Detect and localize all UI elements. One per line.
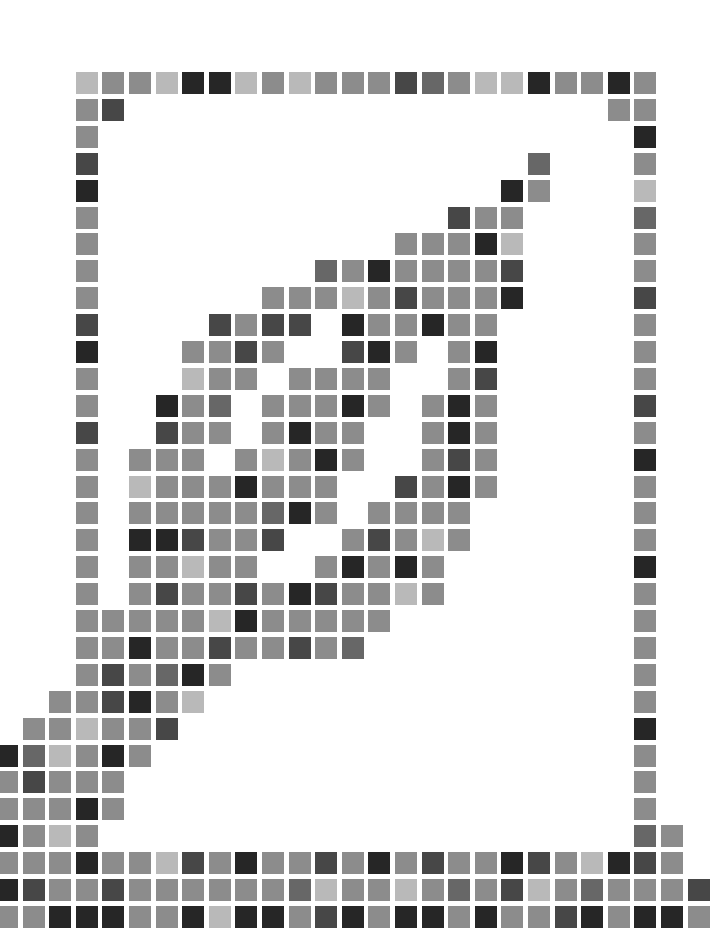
mosaic-tile xyxy=(395,260,417,282)
mosaic-tile xyxy=(342,422,364,444)
mosaic-tile xyxy=(422,583,444,605)
mosaic-tile xyxy=(634,449,656,471)
mosaic-tile xyxy=(0,906,18,928)
mosaic-tile xyxy=(528,72,550,94)
mosaic-tile xyxy=(0,852,18,874)
mosaic-tile xyxy=(448,368,470,390)
mosaic-tile xyxy=(368,72,390,94)
mosaic-tile xyxy=(129,664,151,686)
mosaic-tile xyxy=(102,745,124,767)
mosaic-tile xyxy=(634,906,656,928)
mosaic-tile xyxy=(129,476,151,498)
mosaic-tile xyxy=(129,852,151,874)
mosaic-tile xyxy=(342,449,364,471)
mosaic-tile xyxy=(182,556,204,578)
mosaic-tile xyxy=(182,395,204,417)
mosaic-tile xyxy=(76,422,98,444)
mosaic-tile xyxy=(448,529,470,551)
mosaic-tile xyxy=(235,476,257,498)
mosaic-tile xyxy=(501,180,523,202)
mosaic-tile xyxy=(289,422,311,444)
mosaic-tile xyxy=(129,637,151,659)
mosaic-tile xyxy=(0,825,18,847)
mosaic-tile xyxy=(76,260,98,282)
mosaic-tile xyxy=(289,449,311,471)
mosaic-tile xyxy=(422,314,444,336)
mosaic-tile xyxy=(76,664,98,686)
mosaic-tile xyxy=(182,637,204,659)
mosaic-tile xyxy=(422,449,444,471)
mosaic-tile xyxy=(129,502,151,524)
mosaic-tile xyxy=(235,72,257,94)
mosaic-tile xyxy=(76,691,98,713)
mosaic-tile xyxy=(76,99,98,121)
mosaic-tile xyxy=(289,583,311,605)
mosaic-tile xyxy=(315,260,337,282)
mosaic-tile xyxy=(262,72,284,94)
mosaic-tile xyxy=(608,99,630,121)
mosaic-tile xyxy=(475,852,497,874)
mosaic-tile xyxy=(209,529,231,551)
mosaic-tile xyxy=(342,583,364,605)
mosaic-tile xyxy=(688,879,710,901)
mosaic-tile xyxy=(102,906,124,928)
mosaic-tile xyxy=(209,502,231,524)
mosaic-tile xyxy=(368,906,390,928)
mosaic-tile xyxy=(634,879,656,901)
mosaic-tile xyxy=(448,879,470,901)
mosaic-tile xyxy=(182,502,204,524)
mosaic-tile xyxy=(289,476,311,498)
mosaic-tile xyxy=(182,476,204,498)
mosaic-tile xyxy=(555,852,577,874)
mosaic-tile xyxy=(156,502,178,524)
mosaic-tile xyxy=(156,691,178,713)
mosaic-tile xyxy=(422,502,444,524)
mosaic-tile xyxy=(235,879,257,901)
mosaic-tile xyxy=(528,153,550,175)
mosaic-tile xyxy=(49,718,71,740)
mosaic-tile xyxy=(315,395,337,417)
mosaic-tile xyxy=(475,395,497,417)
mosaic-tile xyxy=(555,906,577,928)
mosaic-tile xyxy=(76,718,98,740)
mosaic-tile xyxy=(156,718,178,740)
mosaic-tile xyxy=(555,72,577,94)
mosaic-tile xyxy=(209,72,231,94)
mosaic-tile xyxy=(395,556,417,578)
mosaic-tile xyxy=(129,610,151,632)
mosaic-tile xyxy=(661,906,683,928)
mosaic-tile xyxy=(129,72,151,94)
mosaic-tile xyxy=(262,879,284,901)
mosaic-tile xyxy=(76,879,98,901)
mosaic-tile xyxy=(634,314,656,336)
mosaic-tile xyxy=(156,422,178,444)
mosaic-tile xyxy=(608,906,630,928)
mosaic-tile xyxy=(209,664,231,686)
mosaic-tile xyxy=(182,422,204,444)
mosaic-tile xyxy=(475,260,497,282)
mosaic-tile xyxy=(262,852,284,874)
mosaic-tile xyxy=(235,906,257,928)
mosaic-tile xyxy=(182,368,204,390)
mosaic-tile xyxy=(368,314,390,336)
mosaic-tile xyxy=(475,287,497,309)
mosaic-tile xyxy=(182,852,204,874)
mosaic-tile xyxy=(448,449,470,471)
mosaic-tile xyxy=(182,610,204,632)
mosaic-tile xyxy=(475,207,497,229)
mosaic-tile xyxy=(76,502,98,524)
mosaic-tile xyxy=(395,233,417,255)
mosaic-tile xyxy=(368,395,390,417)
mosaic-tile xyxy=(581,72,603,94)
mosaic-tile xyxy=(209,852,231,874)
mosaic-tile xyxy=(23,771,45,793)
mosaic-tile xyxy=(0,771,18,793)
mosaic-tile xyxy=(76,476,98,498)
mosaic-tile xyxy=(209,422,231,444)
mosaic-tile xyxy=(209,879,231,901)
mosaic-tile xyxy=(156,395,178,417)
mosaic-tile xyxy=(129,879,151,901)
mosaic-tile xyxy=(608,852,630,874)
mosaic-tile xyxy=(634,287,656,309)
mosaic-tile xyxy=(23,852,45,874)
